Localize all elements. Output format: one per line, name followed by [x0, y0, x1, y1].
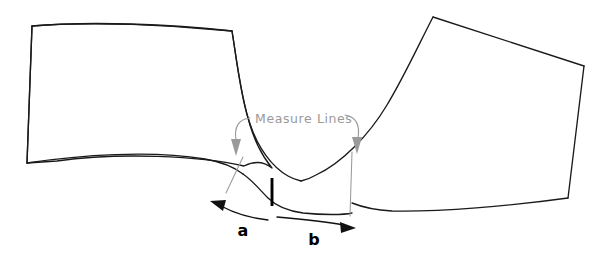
dimension-a-line — [221, 206, 268, 220]
measure-lines-label: Measure Lines — [255, 111, 352, 126]
dimension-a-arrow-head — [210, 200, 226, 211]
left-callout-arrow-head — [231, 139, 241, 156]
left-panel-bottom-edge — [27, 154, 243, 174]
dimension-a-label: a — [238, 221, 249, 240]
dimension-b-arrow-head — [340, 222, 356, 233]
right-callout-arrow-head — [352, 137, 362, 154]
right-panel-bottom-edge — [352, 198, 568, 211]
right-panel-valley-edge — [301, 17, 433, 181]
dimension-b-label: b — [308, 230, 319, 249]
measure-lines-diagram: Measure Lines a b — [0, 0, 604, 253]
right-measure-line — [350, 152, 352, 216]
dimension-b-line — [277, 217, 344, 225]
right-panel-top-edge — [433, 17, 584, 66]
left-callout-arrow-curve — [236, 118, 250, 140]
left-panel-left-edge — [27, 26, 32, 163]
right-panel-right-edge — [568, 66, 584, 198]
diagram-canvas: Measure Lines a b — [0, 0, 604, 253]
